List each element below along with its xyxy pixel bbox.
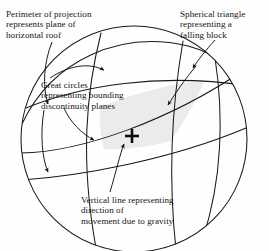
label-great-circles: Great circles representing bounding disc… [41,80,124,111]
label-line: representing a [180,19,245,29]
label-spherical-triangle: Spherical triangle representing a fallin… [180,9,245,40]
label-line: direction of [81,205,174,215]
great-circle-7 [203,58,220,238]
label-line: Great circles [41,80,124,90]
label-line: horizontal roof [6,30,92,40]
label-line: discontinuity planes [41,101,124,111]
label-line: Vertical line representing [81,195,174,205]
label-line: Perimeter of projection [6,9,92,19]
label-line: representing bounding [41,90,124,100]
label-line: falling block [180,30,245,40]
label-vertical-line: Vertical line representing direction of … [81,195,174,226]
leader-arrow-great-circles-mid [64,108,94,140]
stereonet-figure: Perimeter of projection represents plane… [0,0,269,251]
label-line: Spherical triangle [180,9,245,19]
label-perimeter-of-projection: Perimeter of projection represents plane… [6,9,92,40]
label-line: represents plane of [6,19,92,29]
label-line: movement due to gravity [81,216,174,226]
leader-arrow-great-circles-down [42,110,48,172]
